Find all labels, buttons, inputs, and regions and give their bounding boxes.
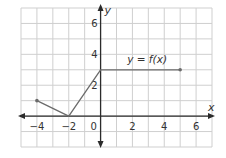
x-axis-label: x xyxy=(207,101,215,114)
y-tick-label: 4 xyxy=(91,49,97,60)
x-tick-label: −4 xyxy=(30,121,45,132)
y-axis-label: y xyxy=(104,4,112,17)
function-label: y = f(x) xyxy=(126,53,167,65)
x-tick-label: 4 xyxy=(161,121,167,132)
x-tick-label: 0 xyxy=(90,121,96,132)
function-curve xyxy=(35,68,182,116)
function-graph: −4−20246246 x y y = f(x) xyxy=(0,0,226,158)
grid xyxy=(21,8,212,147)
x-tick-label: −2 xyxy=(61,121,76,132)
y-tick-label: 6 xyxy=(91,18,97,29)
function-line xyxy=(37,70,180,116)
endpoint-dot xyxy=(35,99,39,103)
x-tick-label: 2 xyxy=(129,121,135,132)
tick-labels: −4−20246246 xyxy=(30,18,200,132)
endpoint-dot xyxy=(178,68,182,72)
x-tick-label: 6 xyxy=(193,121,199,132)
